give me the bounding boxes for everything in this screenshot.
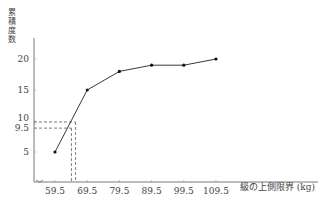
y-label-char: 度: [8, 25, 16, 35]
x-tick-label: 99.5: [174, 186, 194, 196]
y-tick-label: 9.5: [15, 123, 30, 133]
y-label-char: 累: [8, 8, 16, 17]
data-point: [118, 70, 121, 73]
x-tick-label: 109.5: [203, 186, 229, 196]
data-point: [214, 57, 217, 60]
y-label-char: 数: [8, 34, 16, 44]
data-point: [53, 150, 56, 153]
data-point: [86, 88, 89, 91]
x-tick-label: 89.5: [142, 186, 162, 196]
x-tick-label: 79.5: [109, 186, 129, 196]
y-axis-label: 累積度数: [8, 8, 16, 44]
y-tick-label: 20: [18, 54, 30, 64]
data-point: [182, 64, 185, 67]
ogive-chart: 累積度数 59.5101520 59.569.579.589.599.5109.…: [0, 0, 322, 211]
y-tick-label: 10: [18, 113, 30, 123]
x-tick-label: 59.5: [45, 186, 65, 196]
x-tick-label: 69.5: [77, 186, 97, 196]
data-point: [150, 64, 153, 67]
y-label-char: 積: [8, 16, 16, 26]
x-axis-label: 級の上側限界 (kg): [240, 181, 315, 192]
y-tick-label: 15: [18, 85, 30, 95]
y-tick-label: 5: [23, 147, 29, 157]
series-line: [53, 57, 217, 153]
y-ticks: 59.5101520: [15, 54, 36, 157]
